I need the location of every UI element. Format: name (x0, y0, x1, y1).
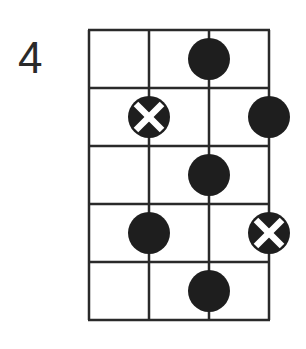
note-dot-icon (128, 212, 170, 254)
x-marker-icon (248, 212, 290, 254)
note-dot-icon (188, 38, 230, 80)
x-marker-icon (128, 96, 170, 138)
note-dot-icon (188, 270, 230, 312)
note-markers (128, 38, 290, 312)
note-dot-icon (188, 154, 230, 196)
note-dot-icon (248, 96, 290, 138)
fretboard-grid (88, 30, 270, 320)
fretboard-diagram (0, 0, 306, 349)
